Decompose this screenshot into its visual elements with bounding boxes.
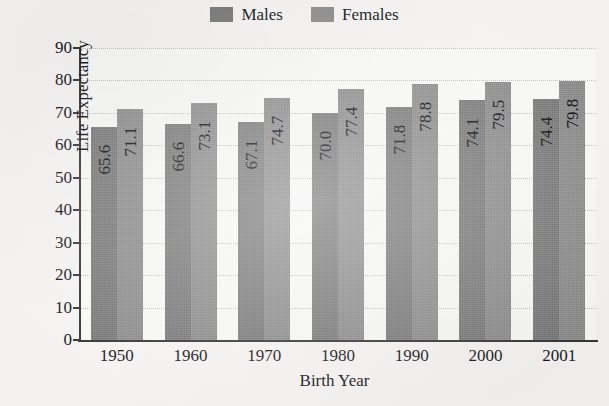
- x-axis-tick-label: 1960: [154, 346, 228, 365]
- plot-area: 0102030405060708090 Life Expectancy 65.6…: [80, 48, 596, 340]
- bars-layer: 65.671.166.673.167.174.770.077.471.878.8…: [80, 48, 596, 340]
- x-axis-tick-label: 1990: [375, 346, 449, 365]
- x-axis-tick-label: 1950: [80, 346, 154, 365]
- bar-males-1950[interactable]: 65.6: [91, 127, 117, 340]
- bar-value-label: 79.8: [564, 99, 581, 129]
- legend-label-females: Females: [342, 6, 399, 23]
- bar-group: 70.077.4: [301, 48, 375, 340]
- y-axis-tick-label: 60: [38, 136, 72, 153]
- x-axis-tick-label: 1970: [227, 346, 301, 365]
- y-axis-tick-label: 30: [38, 234, 72, 251]
- chart-legend: Males Females: [0, 6, 609, 23]
- bar-males-1980[interactable]: 70.0: [312, 113, 338, 340]
- bar-value-label: 65.6: [95, 145, 112, 175]
- y-axis-tick-label: 80: [38, 71, 72, 88]
- bar-value-label: 67.1: [243, 140, 260, 170]
- x-axis-tick-label: 1980: [301, 346, 375, 365]
- bar-value-label: 74.4: [538, 116, 555, 146]
- bar-females-2001[interactable]: 79.8: [559, 81, 585, 340]
- life-expectancy-bar-chart: Males Females 0102030405060708090 Life E…: [0, 0, 609, 406]
- legend-item-males: Males: [210, 6, 283, 23]
- y-axis-tick-label: 90: [38, 39, 72, 56]
- bar-value-label: 73.1: [195, 120, 212, 150]
- bar-males-1990[interactable]: 71.8: [386, 107, 412, 340]
- y-axis-tick-label: 70: [38, 104, 72, 121]
- bar-value-label: 74.1: [464, 117, 481, 147]
- chart-title-cropped: [150, 0, 480, 5]
- legend-item-females: Females: [311, 6, 399, 23]
- bar-group: 74.479.8: [522, 48, 596, 340]
- bar-group: 67.174.7: [227, 48, 301, 340]
- bar-females-1950[interactable]: 71.1: [117, 109, 143, 340]
- bar-group: 74.179.5: [449, 48, 523, 340]
- bar-males-1960[interactable]: 66.6: [165, 124, 191, 340]
- bar-males-2001[interactable]: 74.4: [533, 99, 559, 340]
- bar-females-2000[interactable]: 79.5: [485, 82, 511, 340]
- bar-group: 71.878.8: [375, 48, 449, 340]
- x-axis-tick-label: 2001: [522, 346, 596, 365]
- x-axis-tick-label: 2000: [449, 346, 523, 365]
- x-axis-line: [78, 340, 598, 342]
- y-axis-tick: [73, 274, 80, 276]
- y-axis-tick: [73, 209, 80, 211]
- bar-males-2000[interactable]: 74.1: [459, 100, 485, 340]
- x-axis-tick-labels: 1950196019701980199020002001: [80, 346, 596, 370]
- legend-swatch-males-icon: [210, 7, 233, 22]
- bar-females-1960[interactable]: 73.1: [191, 103, 217, 340]
- bar-females-1990[interactable]: 78.8: [412, 84, 438, 340]
- bar-value-label: 74.7: [269, 115, 286, 145]
- bar-value-label: 79.5: [490, 100, 507, 130]
- bar-females-1970[interactable]: 74.7: [264, 98, 290, 340]
- bar-group: 66.673.1: [154, 48, 228, 340]
- legend-label-males: Males: [241, 6, 283, 23]
- bar-value-label: 66.6: [169, 142, 186, 172]
- y-axis-tick-label: 20: [38, 266, 72, 283]
- bar-value-label: 78.8: [416, 102, 433, 132]
- y-axis-tick-label: 40: [38, 201, 72, 218]
- bar-group: 65.671.1: [80, 48, 154, 340]
- y-axis-tick-label: 10: [38, 299, 72, 316]
- bar-value-label: 70.0: [316, 131, 333, 161]
- y-axis-tick: [73, 339, 80, 341]
- legend-swatch-females-icon: [311, 7, 334, 22]
- bar-value-label: 71.8: [390, 125, 407, 155]
- y-axis-tick-label: 0: [38, 331, 72, 348]
- bar-males-1970[interactable]: 67.1: [238, 122, 264, 340]
- x-axis-title: Birth Year: [0, 371, 609, 390]
- y-axis-tick: [73, 242, 80, 244]
- y-axis-tick-label: 50: [38, 169, 72, 186]
- y-axis-tick: [73, 307, 80, 309]
- bar-value-label: 77.4: [342, 107, 359, 137]
- bar-value-label: 71.1: [121, 127, 138, 157]
- y-axis-tick: [73, 177, 80, 179]
- bar-females-1980[interactable]: 77.4: [338, 89, 364, 340]
